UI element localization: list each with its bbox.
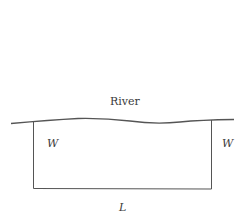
length-label: L [119,202,126,213]
diagram-canvas [0,0,245,222]
width-label-right: W [222,138,233,149]
river-fence-diagram: River W W L [0,0,245,222]
width-label-left: W [47,138,58,149]
river-bank-line [11,118,234,123]
river-label: River [110,96,140,107]
fence-bottom-side [34,189,212,190]
